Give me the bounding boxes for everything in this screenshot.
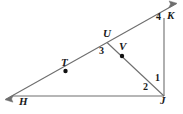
- point-label-K: K: [167, 10, 174, 21]
- segment-UJ-line: [107, 43, 164, 97]
- point-label-J: J: [160, 95, 166, 106]
- angle-label-1: 1: [155, 73, 160, 83]
- angle-label-4: 4: [156, 12, 161, 22]
- point-dot-V: [120, 54, 124, 58]
- point-dot-T: [63, 69, 67, 73]
- point-label-U: U: [103, 28, 111, 39]
- angle-label-3: 3: [99, 46, 104, 56]
- point-label-H: H: [19, 96, 28, 107]
- point-label-T: T: [61, 57, 68, 68]
- geometry-diagram: K U V T J H 4 3 1 2: [0, 0, 183, 114]
- ray-HK-line: [6, 4, 177, 100]
- point-label-V: V: [119, 41, 126, 52]
- angle-label-2: 2: [143, 82, 148, 92]
